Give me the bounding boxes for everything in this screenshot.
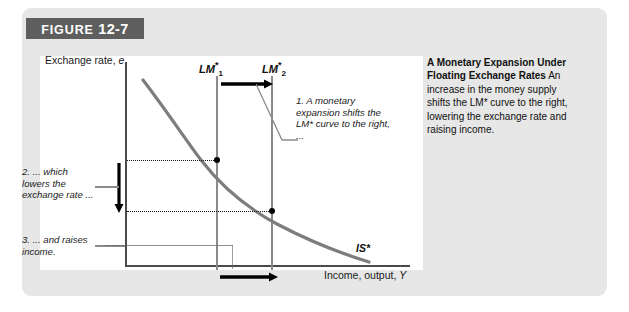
x-axis-label: Income, output, Y bbox=[324, 269, 406, 281]
annotation-3-text: 3. ... and raises income. bbox=[22, 234, 102, 257]
y-axis-label: Exchange rate, e bbox=[45, 54, 124, 66]
equilibrium-point-initial bbox=[214, 157, 220, 163]
figure-caption: A Monetary Expansion Under Floating Exch… bbox=[427, 56, 579, 136]
annotation-1-leader-line bbox=[256, 84, 298, 152]
equilibrium-point-new bbox=[269, 208, 275, 214]
figure-number: 12-7 bbox=[98, 21, 129, 37]
figure-title: FIGURE 12-7 bbox=[41, 21, 129, 37]
annotation-2-leader-line bbox=[95, 186, 119, 188]
x-axis-label-variable: Y bbox=[399, 269, 406, 281]
annotation-1-text: 1. A monetary expansion shifts the LM* c… bbox=[296, 95, 396, 141]
figure-title-bar: FIGURE 12-7 bbox=[26, 18, 144, 39]
exchange-rate-decrease-arrow bbox=[114, 163, 124, 213]
annotation-1-backdrop bbox=[415, 56, 423, 270]
is-curve-label: IS* bbox=[356, 242, 370, 254]
y-axis-label-variable: e bbox=[119, 54, 125, 66]
annotation-3-leader-box bbox=[105, 245, 233, 269]
figure-title-label: FIGURE bbox=[41, 23, 94, 37]
annotation-2-text: 2. ... which lowers the exchange rate ..… bbox=[22, 166, 94, 201]
exchange-rate-reference-line-2 bbox=[127, 211, 273, 212]
y-axis-label-text: Exchange rate, bbox=[45, 54, 119, 66]
exchange-rate-reference-line-1 bbox=[127, 160, 218, 161]
x-axis-label-text: Income, output, bbox=[324, 269, 399, 281]
income-increase-arrow bbox=[220, 272, 278, 282]
